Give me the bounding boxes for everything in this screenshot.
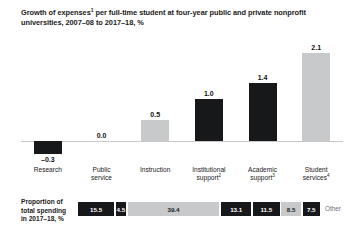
bar-value-label: 0.0 (97, 132, 107, 139)
x-axis-label: Academicsupport3 (236, 166, 290, 183)
bar-slot: 0.0 (75, 33, 129, 159)
proportion-segment: 8.5 (281, 202, 301, 216)
bar-slot: 1.0 (182, 33, 236, 159)
x-axis-label-footnote-marker: 3 (272, 173, 275, 178)
x-axis-label-footnote-marker: 2 (219, 173, 222, 178)
proportion-segment: 13.1 (221, 202, 252, 216)
bar (195, 99, 223, 141)
bar (34, 141, 62, 154)
proportion-other-label: Other (325, 205, 341, 212)
proportion-label-line1: Proportion of (21, 198, 73, 207)
proportion-segment: 11.5 (253, 202, 280, 216)
bar (249, 83, 277, 141)
bar-slot: 1.4 (236, 33, 290, 159)
bar (302, 53, 330, 141)
x-axis-label-line: Research (22, 166, 74, 174)
proportion-label-line2: total spending (21, 207, 73, 216)
x-axis-label-line: Instruction (129, 166, 181, 174)
proportion-segment: 4.5 (116, 202, 126, 216)
x-axis-label: Studentservices4 (289, 166, 343, 183)
x-axis-label-line: service (76, 174, 128, 182)
x-axis-label: Institutionalsupport2 (182, 166, 236, 183)
proportion-row: Proportion of total spending in 2017–18,… (21, 198, 343, 228)
x-axis-category-labels: ResearchPublicserviceInstructionInstitut… (21, 166, 343, 183)
proportion-segment: 15.5 (78, 202, 114, 216)
bar-slot: 0.5 (128, 33, 182, 159)
proportion-stacked-bar: 15.54.539.413.111.58.57.5 (78, 202, 320, 216)
chart-title: Growth of expenses1 per full-time studen… (21, 8, 343, 28)
x-axis-label-footnote-marker: 4 (327, 173, 330, 178)
x-axis-label-line: Public (76, 166, 128, 174)
bar-slot: 2.1 (289, 33, 343, 159)
bar-value-label: 0.5 (150, 111, 160, 118)
chart-figure: Growth of expenses1 per full-time studen… (0, 0, 357, 236)
x-axis-label-line: services4 (290, 174, 342, 182)
bar-value-label: 2.1 (311, 44, 321, 51)
bar-value-label: 1.0 (204, 90, 214, 97)
bar-value-label: 1.4 (258, 74, 268, 81)
x-axis-label-line: support3 (237, 174, 289, 182)
bar-series: –0.30.00.51.01.42.1 (21, 33, 343, 159)
chart-title-line1-a: Growth of expenses (21, 8, 91, 17)
chart-title-line2: 2007–08 to 2017–18, % (66, 18, 144, 27)
x-axis-label: Research (21, 166, 75, 183)
bar-value-label: –0.3 (41, 156, 55, 163)
proportion-label-line3: in 2017–18, % (21, 215, 73, 224)
x-axis-label: Instruction (128, 166, 182, 183)
proportion-segment: 39.4 (128, 202, 220, 216)
x-axis-label-line: support2 (183, 174, 235, 182)
proportion-segment: 7.5 (303, 202, 320, 216)
bar-slot: –0.3 (21, 33, 75, 159)
plot-area: –0.30.00.51.01.42.1 (21, 33, 343, 159)
proportion-label: Proportion of total spending in 2017–18,… (21, 198, 73, 224)
bar (141, 120, 169, 141)
x-axis-label: Publicservice (75, 166, 129, 183)
